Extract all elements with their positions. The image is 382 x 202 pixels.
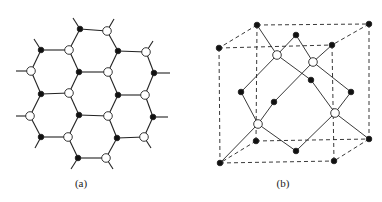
open-atom: [104, 68, 113, 77]
open-atom: [102, 154, 111, 163]
filled-atom: [366, 136, 372, 142]
filled-atom: [151, 70, 157, 76]
open-atom: [142, 48, 151, 57]
filled-atom: [238, 89, 244, 95]
filled-atom: [38, 134, 44, 140]
filled-atom: [150, 114, 156, 120]
filled-atom: [331, 158, 337, 164]
open-atom: [140, 133, 149, 142]
filled-atom: [76, 112, 82, 118]
open-atom: [65, 46, 74, 55]
filled-atom: [216, 45, 222, 51]
filled-atom: [115, 92, 121, 98]
filled-atom: [293, 148, 299, 154]
filled-atom: [38, 47, 44, 53]
lattice-diagrams: [0, 0, 382, 202]
panel-a-label: (a): [75, 177, 87, 189]
filled-atom: [329, 42, 335, 48]
open-atom: [64, 133, 73, 142]
open-atom: [103, 27, 112, 36]
filled-atom: [348, 89, 354, 95]
filled-atom: [254, 22, 260, 28]
filled-atom: [77, 26, 83, 32]
open-atom: [273, 51, 282, 60]
filled-atom: [293, 32, 299, 38]
unit-cell-atoms: [216, 21, 372, 166]
open-atom: [104, 112, 113, 121]
filled-atom: [366, 21, 372, 27]
filled-atom: [253, 138, 259, 144]
panel-b-label: (b): [277, 177, 290, 189]
open-atom: [65, 89, 74, 98]
filled-atom: [76, 69, 82, 75]
filled-atom: [114, 135, 120, 141]
filled-atom: [75, 155, 81, 161]
open-atom: [254, 120, 263, 129]
open-atom: [27, 67, 36, 76]
open-atom: [309, 58, 318, 67]
filled-atom: [308, 77, 314, 83]
filled-atom: [271, 99, 277, 105]
filled-atom: [38, 91, 44, 97]
open-atom: [141, 91, 150, 100]
open-atom: [331, 109, 340, 118]
filled-atom: [115, 48, 121, 54]
filled-atom: [217, 160, 223, 166]
open-atom: [26, 112, 35, 121]
